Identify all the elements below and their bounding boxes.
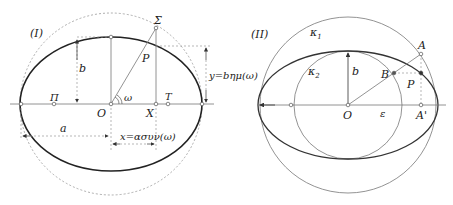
figure-2: (II) κ1 κ2 b A B P O ε A': [251, 17, 446, 193]
label-P2: P: [406, 78, 415, 91]
label-Pi: Π: [49, 92, 59, 103]
figure-label-2: (II): [251, 28, 268, 41]
point-P2: [419, 71, 423, 75]
y-formula: y=bημ(ω): [208, 70, 258, 81]
label-b: b: [79, 62, 86, 75]
point-O2: [346, 103, 350, 107]
point-T: [166, 102, 170, 106]
label-b2: b: [352, 65, 359, 78]
point-A-prime: [419, 103, 423, 107]
label-T: T: [165, 91, 173, 102]
angle-arc: [115, 97, 119, 104]
label-kappa2: κ2: [307, 65, 320, 80]
label-O: O: [97, 107, 106, 120]
label-A-prime: A': [415, 109, 427, 122]
label-X: X: [145, 107, 155, 120]
point-B: [392, 71, 396, 75]
label-B: B: [380, 68, 389, 81]
label-omega: ω: [124, 92, 132, 103]
label-Sigma: Σ: [153, 14, 162, 27]
label-P: P: [141, 52, 150, 65]
label-epsilon: ε: [380, 108, 385, 119]
label-O2: O: [343, 109, 352, 122]
label-A: A: [417, 39, 426, 52]
x-formula: x=ασυν(ω): [120, 131, 176, 142]
label-kappa1: κ1: [309, 26, 322, 41]
label-a: a: [60, 122, 67, 135]
point-O: [109, 102, 113, 106]
point-A: [419, 52, 423, 56]
figure-label-1: (I): [30, 27, 43, 40]
point-X: [154, 102, 158, 106]
figure-1: (I) Σ P b Π ω T O X a x=ασυν(ω) y=bημ(ω): [10, 13, 258, 195]
diagram-canvas: (I) Σ P b Π ω T O X a x=ασυν(ω) y=bημ(ω)…: [0, 0, 453, 205]
